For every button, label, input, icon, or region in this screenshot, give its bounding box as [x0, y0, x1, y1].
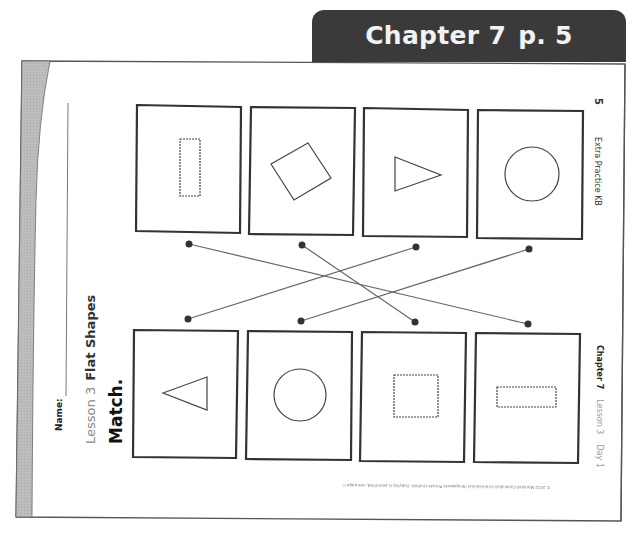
lesson-number: Lesson 3: [83, 387, 98, 444]
top-dot-4[interactable]: [526, 246, 533, 253]
bottom-dot-4[interactable]: [525, 321, 532, 328]
book-title: Extra Practice KB: [593, 137, 602, 206]
page-header-right: 5Extra Practice KB: [593, 98, 604, 206]
top-dot-1[interactable]: [186, 241, 193, 248]
page-label: p. 5: [518, 21, 573, 50]
top-dot-3[interactable]: [413, 244, 420, 251]
chapter-label: Chapter 7: [365, 21, 506, 50]
lesson-title: Flat Shapes: [83, 295, 98, 381]
bottom-dot-3[interactable]: [412, 319, 419, 326]
bottom-dot-2[interactable]: [298, 318, 305, 325]
instruction-text: Match.: [106, 379, 126, 444]
page-footer-right: Chapter 7Lesson 3Day 1: [595, 345, 604, 468]
worksheet-graphics: [0, 0, 638, 535]
name-label: Name:: [54, 398, 64, 431]
page-number: 5: [593, 98, 604, 105]
worksheet-photo: Chapter 7p. 5 Name: Lesson 3Flat Shapes …: [0, 0, 638, 535]
footer-day: Day 1: [595, 444, 604, 467]
footer-lesson: Lesson 3: [595, 399, 604, 434]
chapter-banner: Chapter 7p. 5: [312, 10, 626, 62]
top-dot-2[interactable]: [299, 242, 306, 249]
bottom-dot-1[interactable]: [185, 316, 192, 323]
page-border: [16, 61, 625, 521]
footer-chapter: Chapter 7: [595, 345, 604, 389]
lesson-heading: Lesson 3Flat Shapes: [83, 295, 98, 444]
